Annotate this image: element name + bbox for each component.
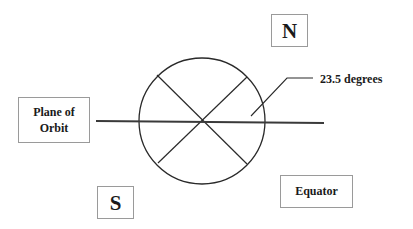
equator-label-box: Equator: [281, 176, 353, 208]
tilt-angle-label: 23.5 degrees: [320, 72, 383, 86]
south-label: S: [110, 191, 122, 215]
north-label-box: N: [272, 15, 308, 47]
north-label: N: [282, 19, 297, 43]
plane-of-orbit-label-line1: Plane of: [33, 105, 76, 119]
plane-of-orbit-label-line2: Orbit: [40, 121, 69, 135]
equator-label: Equator: [295, 184, 338, 198]
plane-of-orbit-label-box: Plane of Orbit: [19, 98, 90, 143]
south-label-box: S: [98, 187, 134, 219]
plane-of-orbit-line: [96, 121, 324, 123]
diagram-canvas: N S Plane of Orbit Equator 23.5 degrees: [0, 0, 413, 229]
